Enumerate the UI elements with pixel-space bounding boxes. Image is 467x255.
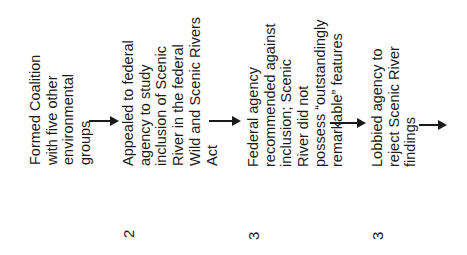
step-3-number: 3 [246, 232, 261, 240]
step-3-line-5: possess “outstandingly [312, 20, 328, 168]
step-2-line-3: inclusion of Scenic [153, 46, 169, 166]
step-4-number: 3 [370, 232, 385, 240]
step-2-line-4: River in the federal [170, 44, 186, 166]
step-4-text: Lobbied agency to reject Scenic River fi… [369, 46, 419, 167]
step-1-line-4: groups [77, 121, 93, 165]
step-1-line-3: environmental [60, 74, 76, 165]
arrow-4-to-next [419, 124, 439, 126]
step-3-line-6: remarkable” features [329, 33, 345, 167]
step-3-line-4: River did not [295, 86, 311, 167]
step-1-line-2: with five other [44, 76, 60, 165]
step-3-text: Federal agency recommended against inclu… [245, 20, 345, 168]
step-1-line-1: Formed Coalition [27, 55, 43, 165]
step-2-line-1: Appealed to federal [120, 40, 136, 166]
step-2-text: Appealed to federal agency to study incl… [120, 17, 220, 166]
step-2-number: 2 [121, 230, 136, 238]
arrow-2-to-3 [209, 120, 233, 122]
step-3-line-2: recommended against [262, 24, 278, 167]
arrow-1-to-2 [89, 120, 111, 122]
step-4-line-1: Lobbied agency to [369, 48, 385, 167]
step-4-line-3: findings [402, 117, 418, 167]
arrow-3-to-4 [330, 122, 358, 124]
step-4-line-2: reject Scenic River [386, 46, 402, 167]
step-3-line-1: Federal agency [245, 67, 261, 167]
step-3-line-3: inclusion; Scenic [278, 59, 294, 167]
step-2-line-5: Wild and Scenic Rivers [187, 17, 203, 166]
step-2-line-6: Act [204, 145, 220, 166]
step-1-text: Formed Coalition with five other environ… [27, 55, 94, 165]
step-2-line-2: agency to study [137, 64, 153, 166]
